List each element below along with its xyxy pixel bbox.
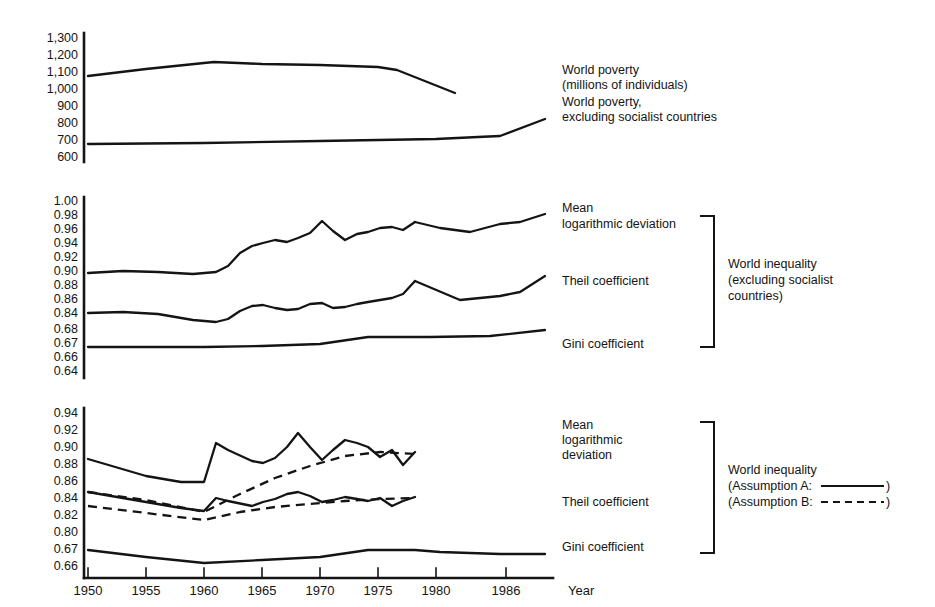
top-ytick-1100: 1,100 <box>47 65 78 79</box>
xtick-label-1950: 1950 <box>74 583 103 598</box>
top-ytick-600: 600 <box>57 150 78 164</box>
middle-series-theil-coefficient <box>88 281 415 322</box>
middle-ytick-100: 1.00 <box>54 194 78 208</box>
bottom-series-theil-assumption-a <box>88 492 415 511</box>
bottom-ytick-066: 0.66 <box>54 559 78 573</box>
x-axis-title: Year <box>568 583 595 598</box>
top-ytick-1200: 1,200 <box>47 48 78 62</box>
bottom-ytick-092: 0.92 <box>54 423 78 437</box>
xtick-label-1986: 1986 <box>492 583 521 598</box>
middle-ytick-090: 0.90 <box>54 264 78 278</box>
middle-label-mld-line1: Mean <box>562 201 593 215</box>
middle-series-gini-coefficient <box>88 330 545 347</box>
xtick-label-1975: 1975 <box>364 583 393 598</box>
middle-ytick-068: 0.68 <box>54 322 78 336</box>
middle-group-label-line1: World inequality <box>728 257 817 271</box>
bottom-series-gini-coefficient <box>88 550 545 563</box>
bottom-ytick-086: 0.86 <box>54 474 78 488</box>
bottom-group-bracket <box>700 422 714 553</box>
top-label-world-poverty-excl-line1: World poverty, <box>562 95 641 109</box>
three-panel-line-chart: 1,300 1,200 1,100 1,000 900 800 700 600 … <box>0 0 935 607</box>
middle-ytick-084: 0.84 <box>54 306 78 320</box>
middle-series-mean-log-deviation-tail <box>415 214 545 232</box>
middle-panel: 1.00 0.98 0.96 0.94 0.92 0.90 0.88 0.86 … <box>54 194 834 378</box>
middle-ytick-094: 0.94 <box>54 236 78 250</box>
middle-ytick-064: 0.64 <box>54 364 78 378</box>
bottom-ytick-094: 0.94 <box>54 406 78 420</box>
middle-label-theil: Theil coefficient <box>562 274 649 288</box>
xtick-label-1960: 1960 <box>190 583 219 598</box>
bottom-label-mld-line2: logarithmic <box>562 433 622 447</box>
bottom-series-mld-assumption-a <box>88 433 415 482</box>
bottom-ytick-084: 0.84 <box>54 491 78 505</box>
bottom-ytick-082: 0.82 <box>54 508 78 522</box>
bottom-group-label-line2: (Assumption A: <box>728 479 812 493</box>
top-ytick-900: 900 <box>57 99 78 113</box>
top-ytick-800: 800 <box>57 116 78 130</box>
middle-label-gini: Gini coefficient <box>562 337 644 351</box>
middle-ytick-092: 0.92 <box>54 250 78 264</box>
bottom-group-label-line3-end: ) <box>886 495 890 509</box>
top-series-world-poverty <box>88 62 455 93</box>
top-ytick-700: 700 <box>57 133 78 147</box>
top-label-world-poverty-excl-line2: excluding socialist countries <box>562 110 717 124</box>
bottom-panel: 0.94 0.92 0.90 0.88 0.86 0.84 0.82 0.80 … <box>54 406 891 578</box>
figure-container: 1,300 1,200 1,100 1,000 900 800 700 600 … <box>0 0 935 607</box>
bottom-ytick-090: 0.90 <box>54 440 78 454</box>
bottom-group-label-line1: World inequality <box>728 463 817 477</box>
bottom-ytick-067: 0.67 <box>54 542 78 556</box>
middle-group-label-line2: (excluding socialist <box>728 273 833 287</box>
middle-ytick-086: 0.86 <box>54 292 78 306</box>
bottom-label-mld-line3: deviation <box>562 448 612 462</box>
top-panel: 1,300 1,200 1,100 1,000 900 800 700 600 … <box>47 31 717 164</box>
bottom-label-gini: Gini coefficient <box>562 540 644 554</box>
bottom-label-theil: Theil coefficient <box>562 495 649 509</box>
middle-series-mean-log-deviation <box>88 221 415 274</box>
middle-label-mld-line2: logarithmic deviation <box>562 217 676 231</box>
bottom-ytick-080: 0.80 <box>54 525 78 539</box>
middle-ytick-096: 0.96 <box>54 222 78 236</box>
top-ytick-1300: 1,300 <box>47 31 78 45</box>
top-label-world-poverty-line2: (millions of individuals) <box>562 78 688 92</box>
xtick-label-1955: 1955 <box>132 583 161 598</box>
bottom-group-label-line2-end: ) <box>886 479 890 493</box>
middle-group-label-line3: countries) <box>728 289 783 303</box>
top-ytick-1000: 1,000 <box>47 82 78 96</box>
middle-ytick-088: 0.88 <box>54 278 78 292</box>
middle-series-theil-coefficient-tail <box>415 276 545 300</box>
xtick-label-1980: 1980 <box>422 583 451 598</box>
top-series-world-poverty-excl-socialist <box>88 119 545 144</box>
x-axis: 1950 1955 1960 1965 1970 1975 1980 1986 … <box>74 568 595 598</box>
middle-ytick-067: 0.67 <box>54 336 78 350</box>
middle-ytick-098: 0.98 <box>54 208 78 222</box>
middle-group-bracket <box>700 216 714 347</box>
middle-ytick-066: 0.66 <box>54 350 78 364</box>
xtick-label-1965: 1965 <box>248 583 277 598</box>
bottom-group-label-line3: (Assumption B: <box>728 495 813 509</box>
bottom-label-mld-line1: Mean <box>562 418 593 432</box>
bottom-ytick-088: 0.88 <box>54 457 78 471</box>
xtick-label-1970: 1970 <box>306 583 335 598</box>
top-label-world-poverty-line1: World poverty <box>562 63 640 77</box>
